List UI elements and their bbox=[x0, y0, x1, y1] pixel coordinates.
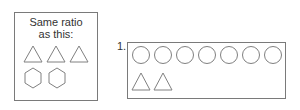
circle-icon bbox=[177, 47, 194, 64]
circle-icon bbox=[265, 47, 282, 64]
reference-shapes bbox=[15, 13, 99, 102]
circle-icon bbox=[133, 47, 150, 64]
reference-ratio-box: Same ratio as this: bbox=[14, 12, 98, 101]
triangle-icon bbox=[154, 73, 172, 90]
hexagon-icon bbox=[49, 68, 65, 88]
circle-icon bbox=[155, 47, 172, 64]
problem-box bbox=[127, 42, 286, 99]
triangle-icon bbox=[132, 73, 150, 90]
triangle-icon bbox=[47, 46, 65, 62]
circle-icon bbox=[243, 47, 260, 64]
hexagon-icon bbox=[25, 68, 41, 88]
problem-number: 1. bbox=[117, 40, 126, 52]
circle-icon bbox=[199, 47, 216, 64]
circle-icon bbox=[221, 47, 238, 64]
problem-shapes bbox=[128, 43, 287, 100]
triangle-icon bbox=[70, 46, 88, 62]
triangle-icon bbox=[24, 46, 42, 62]
